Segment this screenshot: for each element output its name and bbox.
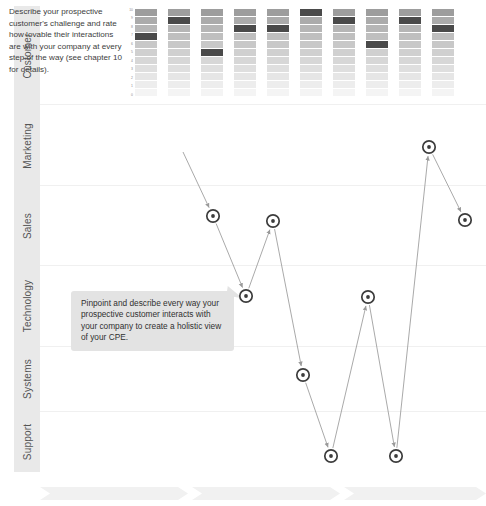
heatmap-column-6[interactable] (300, 9, 322, 97)
heatmap-column-7[interactable] (333, 9, 355, 97)
heatmap-column-2[interactable] (168, 9, 190, 97)
stage-chevron-1[interactable] (40, 487, 188, 500)
heatmap-cell (366, 17, 388, 25)
heatmap-cell (300, 17, 322, 25)
heatmap-cell (135, 57, 157, 65)
heatmap-cell (333, 81, 355, 89)
heatmap-column-4[interactable] (234, 9, 256, 97)
stage-chevron-3[interactable] (344, 487, 486, 500)
heatmap-tick-6: 6 (131, 43, 133, 46)
category-rail: CustomerMarketingSalesTechnologySystemsS… (14, 6, 40, 472)
heatmap-cell (168, 73, 190, 81)
heatmap-cell (201, 9, 223, 17)
heatmap-cell (267, 81, 289, 89)
heatmap-cell (168, 25, 190, 33)
heatmap-cell-highlight (366, 41, 388, 49)
heatmap-cell (399, 65, 421, 73)
heatmap-cell (234, 49, 256, 57)
heatmap-cell (234, 81, 256, 89)
heatmap-cell (234, 33, 256, 41)
stage-chevron-strip (40, 487, 486, 501)
stage-chevron-2[interactable] (192, 487, 340, 500)
heatmap-cell (234, 65, 256, 73)
heatmap-cell (366, 73, 388, 81)
heatmap-cell (135, 9, 157, 17)
heatmap-cell-highlight (234, 25, 256, 33)
heatmap-cell (234, 17, 256, 25)
heatmap-cell (135, 81, 157, 89)
heatmap-cell (300, 89, 322, 97)
heatmap-cell (135, 65, 157, 73)
heatmap-tick-4: 4 (131, 60, 133, 63)
heatmap-cell (168, 89, 190, 97)
rail-item-label: Marketing (22, 123, 33, 169)
rail-item-systems[interactable]: Systems (14, 346, 40, 413)
heatmap-cell (432, 81, 454, 89)
heatmap-tick-9: 9 (131, 17, 133, 20)
heatmap-cell-highlight (399, 17, 421, 25)
heatmap-cell (399, 41, 421, 49)
heatmap-cell (267, 65, 289, 73)
heatmap-cell (333, 65, 355, 73)
heatmap-column-3[interactable] (201, 9, 223, 97)
heatmap-cell-highlight (201, 49, 223, 57)
heatmap-cell (432, 49, 454, 57)
rail-item-sales[interactable]: Sales (14, 186, 40, 267)
heatmap-cell (234, 41, 256, 49)
heatmap-cell (201, 89, 223, 97)
heatmap-cell (366, 57, 388, 65)
heatmap-cell (168, 9, 190, 17)
heatmap-column-9[interactable] (399, 9, 421, 97)
heatmap-cell (399, 49, 421, 57)
heatmap-column-5[interactable] (267, 9, 289, 97)
heatmap-cell-highlight (300, 9, 322, 17)
heatmap-cell (432, 41, 454, 49)
heatmap-cell (267, 33, 289, 41)
heatmap-cell (267, 9, 289, 17)
heatmap-cell (399, 57, 421, 65)
rail-item-marketing[interactable]: Marketing (14, 106, 40, 187)
heatmap-cell-highlight (135, 33, 157, 41)
heatmap-cell (399, 9, 421, 17)
heatmap-tick-0: 0 (131, 94, 133, 97)
heatmap-cell (300, 41, 322, 49)
heatmap-column-8[interactable] (366, 9, 388, 97)
heatmap-cell (201, 17, 223, 25)
heatmap-cell (366, 25, 388, 33)
rail-item-support[interactable]: Support (14, 412, 40, 473)
heatmap-tick-10: 10 (129, 9, 133, 12)
rail-item-label: Technology (22, 280, 33, 333)
heatmap-cell (168, 41, 190, 49)
heatmap-cell (168, 33, 190, 41)
heatmap-cell (333, 49, 355, 57)
callout-box: Pinpoint and describe every way your pro… (71, 291, 234, 351)
heatmap-cell (333, 9, 355, 17)
heatmap-cell (399, 81, 421, 89)
band-separator-0 (40, 104, 486, 105)
heatmap-cell (432, 65, 454, 73)
heatmap-cell (432, 9, 454, 17)
heatmap-cell (300, 65, 322, 73)
heatmap-cell (432, 73, 454, 81)
heatmap-cell (234, 73, 256, 81)
heatmap-cell (234, 89, 256, 97)
heatmap-column-10[interactable] (432, 9, 454, 97)
heatmap-cell (333, 25, 355, 33)
heatmap-cell (135, 49, 157, 57)
heatmap-cell (135, 73, 157, 81)
heatmap-cell (267, 17, 289, 25)
heatmap-cell (399, 73, 421, 81)
heatmap-column-1[interactable] (135, 9, 157, 97)
heatmap-cell (333, 33, 355, 41)
heatmap-cell (399, 33, 421, 41)
heatmap-cell (333, 73, 355, 81)
heatmap-cell (267, 89, 289, 97)
heatmap-cell (168, 81, 190, 89)
heatmap-cell (399, 25, 421, 33)
heatmap-cell-highlight (267, 25, 289, 33)
heatmap-cell (135, 41, 157, 49)
heatmap-tick-1: 1 (131, 85, 133, 88)
heatmap-cell (234, 9, 256, 17)
rail-item-label: Sales (22, 213, 33, 239)
rail-item-technology[interactable]: Technology (14, 266, 40, 347)
